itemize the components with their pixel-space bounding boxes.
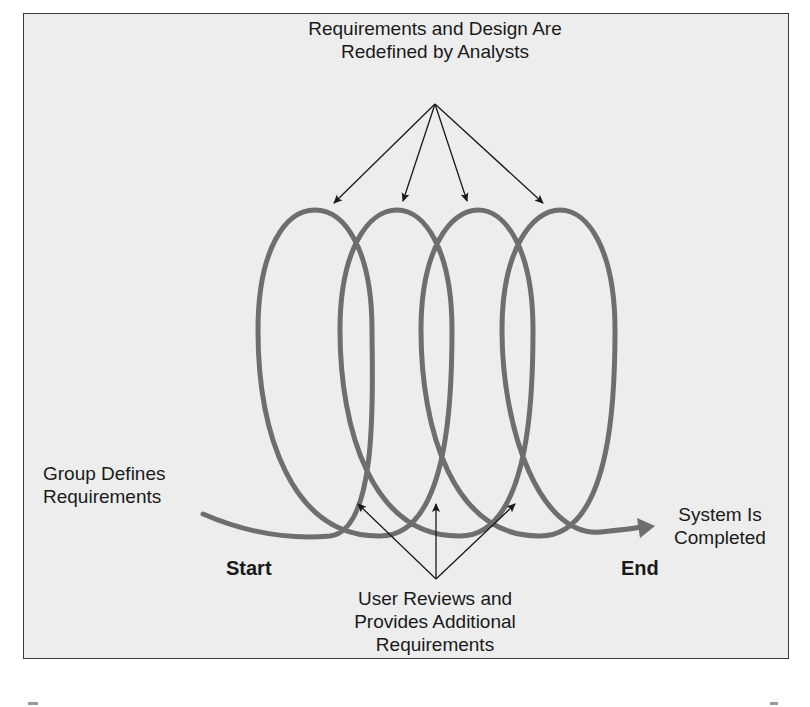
bottom-label-line-1: User Reviews and (320, 587, 550, 610)
analyst-arrows (334, 104, 543, 203)
top-label-line-2: Redefined by Analysts (300, 40, 570, 63)
spiral-loops (203, 210, 640, 537)
bottom-label-line-3: Requirements (320, 633, 550, 656)
left-label-line-1: Group Defines (43, 462, 166, 485)
right-label-line-2: Completed (665, 526, 775, 549)
start-label: Start (226, 557, 272, 580)
page-mark-left (28, 702, 38, 705)
end-label: End (621, 557, 659, 580)
right-label: System Is Completed (665, 503, 775, 549)
left-label-line-2: Requirements (43, 485, 166, 508)
right-label-line-1: System Is (665, 503, 775, 526)
page-mark-right (770, 702, 778, 705)
end-arrowhead-icon (637, 518, 655, 538)
bottom-label: User Reviews and Provides Additional Req… (320, 587, 550, 656)
left-label: Group Defines Requirements (43, 462, 166, 508)
bottom-label-line-2: Provides Additional (320, 610, 550, 633)
top-label-line-1: Requirements and Design Are (300, 17, 570, 40)
user-review-arrows (358, 504, 515, 579)
top-label: Requirements and Design Are Redefined by… (300, 17, 570, 63)
